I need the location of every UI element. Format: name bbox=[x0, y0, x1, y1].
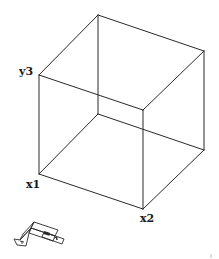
ucs-icon-origin-box bbox=[44, 231, 51, 236]
cube-edge-bottom-back-to-bottom-left bbox=[39, 114, 98, 174]
cube-edge-top-right-to-top-front bbox=[143, 51, 204, 110]
ucs-icon-y-letter bbox=[20, 241, 24, 244]
cube-edge-bottom-right-to-bottom-front bbox=[143, 150, 204, 209]
cube-edge-bottom-left-to-bottom-front bbox=[39, 174, 143, 209]
cube-edge-top-back-to-top-left bbox=[39, 15, 98, 75]
label-y3: y3 bbox=[19, 66, 33, 77]
cube-edge-top-left-to-top-front bbox=[39, 75, 143, 110]
cube-edge-top-back-to-top-right bbox=[98, 15, 204, 51]
cube-edges bbox=[39, 15, 204, 209]
cube-diagram bbox=[0, 0, 219, 259]
label-x2: x2 bbox=[140, 213, 154, 224]
cube-edge-bottom-back-to-bottom-right bbox=[98, 114, 204, 150]
ucs-icon-y-arrow bbox=[14, 228, 31, 246]
ucs-icon bbox=[14, 222, 64, 246]
label-x1: x1 bbox=[26, 179, 40, 190]
